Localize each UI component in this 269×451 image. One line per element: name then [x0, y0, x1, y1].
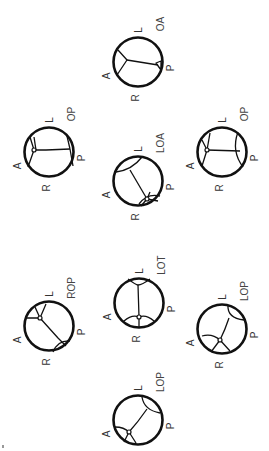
position-label: LOT — [157, 255, 167, 274]
suture-line — [34, 149, 70, 150]
head-diagram-rop — [25, 302, 74, 353]
stray-mark — [2, 445, 4, 448]
fontanelle-marker — [145, 197, 149, 201]
suture-line — [138, 285, 139, 317]
orientation-label-right: R — [131, 213, 141, 220]
position-label: OA — [156, 17, 166, 31]
fontanelle-marker — [127, 430, 131, 434]
fontanelle-marker — [137, 315, 141, 319]
position-label: OP — [67, 107, 77, 121]
suture-line — [207, 150, 240, 151]
orientation-label-left: L — [134, 385, 144, 391]
head-diagram-lop — [198, 305, 247, 354]
orientation-label-posterior: P — [250, 155, 260, 162]
orientation-label-left: L — [134, 146, 144, 152]
head-position-diagrams — [0, 0, 269, 451]
fontanelle-marker — [218, 338, 222, 342]
orientation-label-right: R — [215, 361, 225, 368]
head-diagram-lop — [114, 396, 163, 445]
position-label: LOP — [240, 281, 250, 301]
skull-outline — [198, 305, 247, 354]
head-diagram-op — [198, 128, 247, 177]
orientation-label-left: L — [45, 291, 55, 297]
orientation-label-anterior: A — [103, 314, 113, 321]
orientation-label-right: R — [42, 358, 52, 365]
skull-outline — [25, 302, 74, 351]
fontanelle-marker — [205, 148, 209, 152]
orientation-label-left: L — [45, 117, 55, 123]
suture-line — [129, 409, 147, 432]
suture-line — [220, 318, 229, 340]
orientation-label-posterior: P — [166, 65, 176, 72]
orientation-label-posterior: P — [166, 423, 176, 430]
orientation-label-left: L — [134, 27, 144, 33]
position-label: LOP — [156, 372, 166, 392]
position-label: OP — [240, 107, 250, 121]
orientation-label-anterior: A — [13, 163, 23, 170]
orientation-label-left: L — [135, 268, 145, 274]
orientation-label-right: R — [215, 184, 225, 191]
orientation-label-anterior: A — [186, 163, 196, 170]
orientation-label-posterior: P — [166, 184, 176, 191]
head-diagram-lot — [115, 279, 164, 328]
orientation-label-anterior: A — [102, 192, 112, 199]
suture-line — [117, 50, 127, 75]
head-diagram-oa — [114, 38, 163, 87]
suture-line — [202, 140, 207, 166]
suture-line — [127, 60, 158, 65]
diagram-stage: LOAAPRLOPAPRLOPAPRLLOAAPRLROPAPRLLOTAPRL… — [0, 0, 269, 451]
orientation-label-posterior: P — [167, 306, 177, 313]
orientation-label-anterior: A — [13, 337, 23, 344]
orientation-label-posterior: P — [250, 332, 260, 339]
fontanelle-marker — [38, 316, 42, 320]
orientation-label-right: R — [131, 94, 141, 101]
orientation-label-posterior: P — [77, 155, 87, 162]
suture-line — [156, 61, 161, 70]
head-diagram-loa — [114, 157, 163, 207]
orientation-label-right: R — [132, 335, 142, 342]
orientation-label-anterior: A — [186, 340, 196, 347]
orientation-label-right: R — [42, 184, 52, 191]
skull-outline — [25, 128, 74, 177]
orientation-label-left: L — [218, 294, 228, 300]
orientation-label-anterior: A — [102, 431, 112, 438]
skull-outline — [114, 157, 163, 206]
skull-outline — [114, 396, 163, 445]
orientation-label-left: L — [218, 117, 228, 123]
fontanelle-marker — [32, 148, 36, 152]
position-label: ROP — [67, 277, 77, 299]
head-diagram-op — [25, 128, 74, 177]
suture-line — [130, 170, 147, 199]
skull-outline — [198, 128, 247, 177]
orientation-label-anterior: A — [102, 73, 112, 80]
orientation-label-posterior: P — [77, 329, 87, 336]
position-label: LOA — [156, 133, 166, 153]
